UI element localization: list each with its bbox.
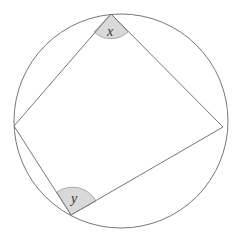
angle-x-label: x <box>106 24 114 39</box>
cyclic-quadrilateral-figure: x y <box>0 0 236 236</box>
angle-y-label: y <box>69 191 78 206</box>
circumcircle <box>14 14 228 228</box>
quadrilateral <box>14 14 223 215</box>
diagram-canvas: x y <box>0 0 236 236</box>
